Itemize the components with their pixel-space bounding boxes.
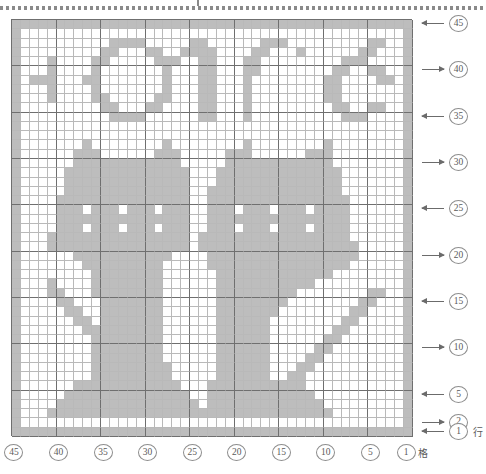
grid-cell[interactable] — [119, 29, 128, 38]
grid-cell[interactable] — [404, 205, 413, 214]
grid-cell[interactable] — [57, 279, 66, 288]
grid-cell[interactable] — [404, 381, 413, 390]
grid-cell[interactable] — [252, 261, 261, 270]
grid-cell[interactable] — [261, 48, 270, 57]
grid-cell[interactable] — [377, 66, 386, 75]
grid-cell[interactable] — [110, 103, 119, 112]
grid-cell[interactable] — [119, 113, 128, 122]
grid-cell[interactable] — [350, 418, 359, 427]
grid-cell[interactable] — [333, 363, 342, 372]
grid-cell[interactable] — [342, 39, 351, 48]
grid-cell[interactable] — [48, 418, 57, 427]
grid-cell[interactable] — [279, 20, 288, 29]
grid-cell[interactable] — [315, 326, 324, 335]
grid-cell[interactable] — [226, 279, 235, 288]
grid-cell[interactable] — [30, 242, 39, 251]
grid-cell[interactable] — [306, 391, 315, 400]
grid-cell[interactable] — [244, 76, 253, 85]
grid-cell[interactable] — [101, 94, 110, 103]
grid-cell[interactable] — [128, 317, 137, 326]
grid-cell[interactable] — [92, 372, 101, 381]
grid-cell[interactable] — [324, 39, 333, 48]
grid-cell[interactable] — [359, 94, 368, 103]
grid-cell[interactable] — [395, 168, 404, 177]
grid-cell[interactable] — [137, 187, 146, 196]
grid-cell[interactable] — [252, 409, 261, 418]
grid-cell[interactable] — [288, 354, 297, 363]
grid-cell[interactable] — [181, 113, 190, 122]
grid-cell[interactable] — [333, 140, 342, 149]
grid-cell[interactable] — [261, 381, 270, 390]
grid-cell[interactable] — [226, 289, 235, 298]
grid-cell[interactable] — [163, 215, 172, 224]
grid-cell[interactable] — [101, 252, 110, 261]
grid-cell[interactable] — [244, 85, 253, 94]
grid-cell[interactable] — [368, 122, 377, 131]
grid-cell[interactable] — [83, 344, 92, 353]
grid-cell[interactable] — [279, 113, 288, 122]
grid-cell[interactable] — [163, 150, 172, 159]
grid-cell[interactable] — [146, 428, 155, 437]
grid-cell[interactable] — [226, 363, 235, 372]
grid-cell[interactable] — [244, 20, 253, 29]
grid-cell[interactable] — [163, 317, 172, 326]
grid-cell[interactable] — [377, 261, 386, 270]
grid-cell[interactable] — [181, 94, 190, 103]
grid-cell[interactable] — [270, 113, 279, 122]
grid-cell[interactable] — [244, 94, 253, 103]
grid-cell[interactable] — [110, 94, 119, 103]
grid-cell[interactable] — [288, 66, 297, 75]
grid-cell[interactable] — [146, 418, 155, 427]
grid-cell[interactable] — [12, 159, 21, 168]
grid-cell[interactable] — [359, 261, 368, 270]
grid-cell[interactable] — [83, 400, 92, 409]
grid-cell[interactable] — [226, 57, 235, 66]
grid-cell[interactable] — [350, 85, 359, 94]
grid-cell[interactable] — [172, 409, 181, 418]
grid-cell[interactable] — [155, 196, 164, 205]
grid-cell[interactable] — [83, 39, 92, 48]
grid-cell[interactable] — [333, 20, 342, 29]
grid-cell[interactable] — [324, 326, 333, 335]
grid-cell[interactable] — [288, 224, 297, 233]
grid-cell[interactable] — [57, 103, 66, 112]
grid-cell[interactable] — [21, 279, 30, 288]
grid-cell[interactable] — [252, 29, 261, 38]
grid-cell[interactable] — [261, 289, 270, 298]
grid-cell[interactable] — [146, 261, 155, 270]
grid-cell[interactable] — [199, 307, 208, 316]
grid-cell[interactable] — [119, 400, 128, 409]
grid-cell[interactable] — [395, 317, 404, 326]
grid-cell[interactable] — [235, 252, 244, 261]
grid-cell[interactable] — [101, 159, 110, 168]
grid-cell[interactable] — [48, 335, 57, 344]
grid-cell[interactable] — [288, 391, 297, 400]
grid-cell[interactable] — [12, 131, 21, 140]
grid-cell[interactable] — [181, 344, 190, 353]
grid-cell[interactable] — [235, 224, 244, 233]
grid-cell[interactable] — [172, 205, 181, 214]
grid-cell[interactable] — [395, 20, 404, 29]
grid-cell[interactable] — [252, 122, 261, 131]
grid-cell[interactable] — [324, 289, 333, 298]
grid-cell[interactable] — [306, 252, 315, 261]
grid-cell[interactable] — [235, 354, 244, 363]
grid-cell[interactable] — [226, 131, 235, 140]
grid-cell[interactable] — [217, 317, 226, 326]
grid-cell[interactable] — [252, 344, 261, 353]
grid-cell[interactable] — [377, 39, 386, 48]
grid-cell[interactable] — [395, 113, 404, 122]
grid-cell[interactable] — [279, 140, 288, 149]
grid-cell[interactable] — [155, 224, 164, 233]
grid-cell[interactable] — [377, 76, 386, 85]
grid-cell[interactable] — [190, 381, 199, 390]
grid-cell[interactable] — [101, 48, 110, 57]
grid-cell[interactable] — [324, 76, 333, 85]
grid-cell[interactable] — [110, 178, 119, 187]
grid-cell[interactable] — [30, 29, 39, 38]
grid-cell[interactable] — [83, 270, 92, 279]
grid-cell[interactable] — [297, 94, 306, 103]
grid-cell[interactable] — [404, 48, 413, 57]
grid-cell[interactable] — [208, 289, 217, 298]
grid-cell[interactable] — [226, 85, 235, 94]
